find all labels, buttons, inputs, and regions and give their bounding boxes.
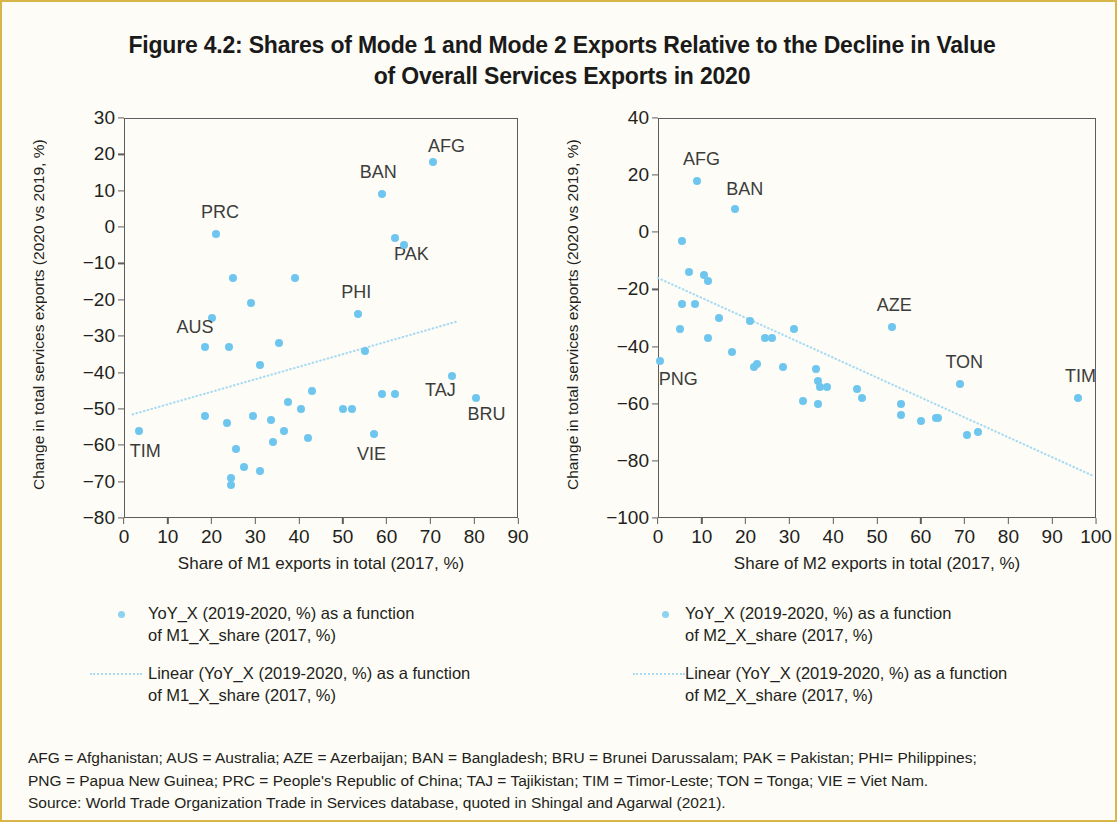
y-tick-label: 40: [628, 107, 649, 129]
scatter-point: [812, 365, 820, 373]
legend-item-series-m1: YoY_X (2019-2020, %) as a function of M1…: [90, 602, 560, 646]
x-tick-label: 30: [779, 526, 800, 548]
x-tick-mark: [167, 518, 168, 524]
scatter-point-label: AFG: [683, 148, 720, 169]
scatter-point-label: PRC: [201, 202, 239, 223]
legend-series-label-m1: YoY_X (2019-2020, %) as a function of M1…: [90, 602, 560, 646]
figure-title: Figure 4.2: Shares of Mode 1 and Mode 2 …: [62, 30, 1062, 92]
x-tick-mark: [1095, 518, 1096, 524]
scatter-point: [1074, 394, 1082, 402]
scatter-point: [678, 300, 686, 308]
scatter-point: [249, 412, 257, 420]
scatter-point: [799, 397, 807, 405]
x-tick-mark: [1008, 518, 1009, 524]
scatter-point: [656, 357, 664, 365]
y-tick-mark: [118, 263, 124, 264]
x-tick-mark: [474, 518, 475, 524]
x-tick-label: 10: [691, 526, 712, 548]
y-tick-mark: [652, 232, 658, 233]
y-tick-mark: [118, 299, 124, 300]
scatter-point: [400, 241, 408, 249]
scatter-point: [256, 361, 264, 369]
x-tick-mark: [833, 518, 834, 524]
x-axis-title-m1: Share of M1 exports in total (2017, %): [124, 554, 518, 574]
scatter-point: [225, 343, 233, 351]
plot-area-m2: Share of M2 exports in total (2017, %) 4…: [658, 118, 1096, 518]
scatter-point: [361, 347, 369, 355]
scatter-point-label: AFG: [428, 135, 465, 156]
scatter-point: [201, 343, 209, 351]
y-tick-mark: [118, 117, 124, 118]
scatter-point: [715, 314, 723, 322]
y-tick-mark: [118, 190, 124, 191]
legend-trend-line2-m2: of M2_X_share (2017, %): [685, 686, 873, 704]
figure-page: Figure 4.2: Shares of Mode 1 and Mode 2 …: [0, 0, 1117, 822]
scatter-point-label: PNG: [659, 368, 698, 389]
scatter-point: [685, 268, 693, 276]
y-tick-mark: [118, 154, 124, 155]
x-tick-label: 10: [157, 526, 178, 548]
scatter-point: [917, 417, 925, 425]
scatter-point-label: AZE: [877, 294, 912, 315]
y-tick-mark: [118, 372, 124, 373]
scatter-point: [339, 405, 347, 413]
chart-panel-m2: Change in total services exports (2020 v…: [550, 110, 1110, 580]
scatter-point: [472, 394, 480, 402]
y-tick-mark: [652, 175, 658, 176]
legend-m2: YoY_X (2019-2020, %) as a function of M2…: [627, 602, 1107, 722]
scatter-point: [275, 339, 283, 347]
x-tick-mark: [745, 518, 746, 524]
scatter-point: [227, 481, 235, 489]
y-tick-label: −70: [83, 471, 115, 493]
trendline-m2: [658, 118, 1096, 518]
scatter-point: [135, 427, 143, 435]
scatter-point-label: BAN: [360, 162, 397, 183]
x-tick-label: 40: [823, 526, 844, 548]
scatter-point: [779, 363, 787, 371]
x-tick-mark: [123, 518, 124, 524]
scatter-point-label: VIE: [357, 444, 386, 465]
scatter-point: [267, 416, 275, 424]
scatter-point-label: BRU: [467, 404, 505, 425]
scatter-point-label: AUS: [176, 317, 213, 338]
legend-trend-line1-m1: Linear (YoY_X (2019-2020, %) as a functi…: [148, 664, 470, 682]
x-tick-mark: [657, 518, 658, 524]
scatter-point: [256, 467, 264, 475]
scatter-point: [897, 400, 905, 408]
y-tick-label: −30: [83, 325, 115, 347]
y-tick-label: −20: [617, 278, 649, 300]
legend-marker-dotted-line-icon: [633, 673, 685, 675]
legend-item-trend-m2: Linear (YoY_X (2019-2020, %) as a functi…: [627, 662, 1107, 706]
scatter-point-label: BAN: [726, 179, 763, 200]
legend-item-trend-m1: Linear (YoY_X (2019-2020, %) as a functi…: [90, 662, 560, 706]
y-tick-mark: [652, 346, 658, 347]
x-tick-label: 50: [866, 526, 887, 548]
legend-item-series-m2: YoY_X (2019-2020, %) as a function of M2…: [627, 602, 1107, 646]
scatter-point: [693, 177, 701, 185]
x-tick-label: 0: [119, 526, 130, 548]
x-tick-label: 80: [998, 526, 1019, 548]
x-tick-label: 0: [653, 526, 664, 548]
x-tick-label: 70: [954, 526, 975, 548]
x-tick-mark: [299, 518, 300, 524]
scatter-point: [728, 348, 736, 356]
y-tick-mark: [652, 403, 658, 404]
scatter-point: [963, 431, 971, 439]
y-tick-label: 20: [94, 143, 115, 165]
scatter-point: [297, 405, 305, 413]
legend-series-label-m2: YoY_X (2019-2020, %) as a function of M2…: [627, 602, 1107, 646]
scatter-point: [790, 325, 798, 333]
scatter-point: [201, 412, 209, 420]
legend-series-line1-m2: YoY_X (2019-2020, %) as a function: [685, 604, 951, 622]
x-tick-mark: [876, 518, 877, 524]
notes-line-2: PNG = Papua New Guinea; PRC = People's R…: [28, 770, 1098, 793]
x-tick-mark: [211, 518, 212, 524]
y-tick-label: −100: [606, 507, 649, 529]
scatter-point: [378, 390, 386, 398]
x-tick-label: 20: [201, 526, 222, 548]
y-tick-label: −50: [83, 398, 115, 420]
y-tick-label: 30: [94, 107, 115, 129]
scatter-point: [823, 383, 831, 391]
scatter-point: [229, 274, 237, 282]
y-axis-title-m2: Change in total services exports (2020 v…: [560, 110, 586, 520]
